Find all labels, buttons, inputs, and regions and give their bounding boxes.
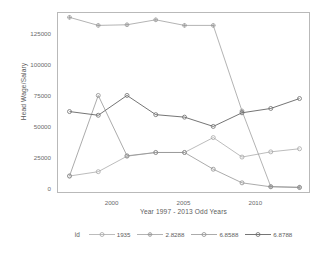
chart-legend: id 19352.82886.85886.8788 xyxy=(57,228,310,240)
legend-swatch xyxy=(89,231,115,238)
y-tick-label: 125000 xyxy=(5,30,51,37)
data-point-marker xyxy=(182,23,186,27)
plot-area xyxy=(57,12,310,193)
plot-lines xyxy=(58,13,311,194)
y-tick-label: 50000 xyxy=(5,123,51,130)
legend-item[interactable]: 6.8788 xyxy=(245,231,292,238)
legend-item[interactable]: 1935 xyxy=(89,231,131,238)
legend-item[interactable]: 6.8588 xyxy=(191,231,238,238)
y-tick-label: 75000 xyxy=(5,92,51,99)
data-point-marker xyxy=(67,15,71,19)
legend-label: 6.8788 xyxy=(273,231,292,238)
data-point-marker xyxy=(96,23,100,27)
data-point-marker xyxy=(154,18,158,22)
y-tick-label: 25000 xyxy=(5,154,51,161)
legend-label: 6.8588 xyxy=(219,231,238,238)
x-tick-label: 2000 xyxy=(92,199,132,206)
series-line xyxy=(70,95,300,126)
series-line xyxy=(70,138,300,176)
data-point-marker xyxy=(125,23,129,27)
y-tick-label: 100000 xyxy=(5,61,51,68)
series-line xyxy=(70,17,300,187)
series-3 xyxy=(68,93,302,128)
data-point-marker xyxy=(148,232,152,236)
y-axis-title: Head Wage/Salary xyxy=(20,47,27,137)
legend-swatch xyxy=(137,231,163,238)
series-0 xyxy=(68,136,302,178)
x-tick-label: 2010 xyxy=(235,199,275,206)
legend-label: 2.8288 xyxy=(165,231,184,238)
legend-label: 1935 xyxy=(117,231,131,238)
legend-title: id xyxy=(75,231,80,238)
y-tick-label: 0 xyxy=(5,185,51,192)
series-1 xyxy=(67,15,301,189)
line-chart: 0250005000075000100000125000 Head Wage/S… xyxy=(0,0,329,258)
legend-swatch xyxy=(191,231,217,238)
x-tick-label: 2005 xyxy=(164,199,204,206)
legend-swatch xyxy=(245,231,271,238)
x-axis-title: Year 1997 - 2013 Odd Years xyxy=(57,208,310,215)
data-point-marker xyxy=(211,23,215,27)
legend-item[interactable]: 2.8288 xyxy=(137,231,184,238)
